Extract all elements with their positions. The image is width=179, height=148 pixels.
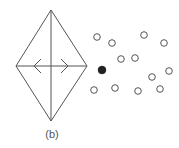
hollow-point (161, 40, 168, 47)
hollow-point (118, 56, 125, 63)
points-group (91, 32, 173, 95)
hollow-point (112, 85, 119, 92)
hollow-point (141, 32, 148, 39)
hollow-point (132, 55, 139, 62)
hollow-point (157, 86, 164, 93)
diamond-shape (16, 10, 87, 121)
hollow-point (149, 74, 156, 81)
figure-label: (b) (40, 128, 64, 140)
hollow-point (135, 88, 142, 95)
hollow-point (94, 34, 101, 41)
hollow-point (91, 87, 98, 94)
filled-point (98, 66, 106, 74)
hollow-point (166, 68, 173, 75)
diagram (0, 0, 179, 148)
hollow-point (109, 40, 116, 47)
